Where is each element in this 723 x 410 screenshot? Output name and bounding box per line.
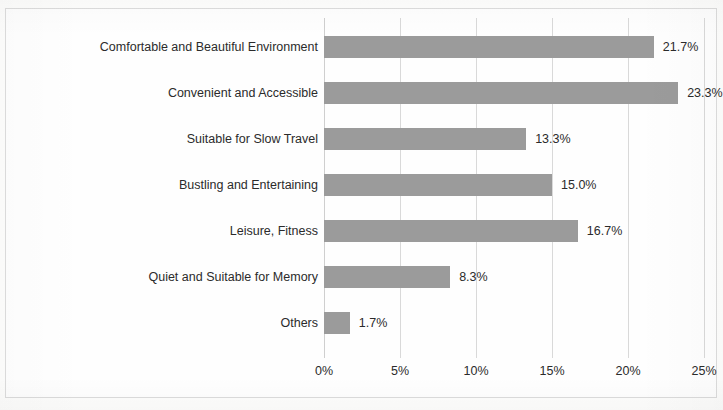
bar[interactable] <box>324 220 578 242</box>
bar-row[interactable]: 21.7% <box>324 36 704 58</box>
x-axis-tick-labels: 0%5%10%15%20%25% <box>324 362 704 384</box>
x-tick-label: 0% <box>315 362 333 380</box>
category-label: Leisure, Fitness <box>8 220 318 242</box>
bar-value-label: 23.3% <box>687 83 722 103</box>
category-label: Convenient and Accessible <box>8 82 318 104</box>
bar[interactable] <box>324 312 350 334</box>
bar-row[interactable]: 8.3% <box>324 266 704 288</box>
gridline-25pct <box>704 18 705 358</box>
bar[interactable] <box>324 128 526 150</box>
bar[interactable] <box>324 174 552 196</box>
category-label: Bustling and Entertaining <box>8 174 318 196</box>
category-label: Others <box>8 312 318 334</box>
category-label: Comfortable and Beautiful Environment <box>8 36 318 58</box>
x-tick-label: 10% <box>463 362 488 380</box>
bar-row[interactable]: 13.3% <box>324 128 704 150</box>
bar-value-label: 8.3% <box>459 267 488 287</box>
x-tick-label: 15% <box>539 362 564 380</box>
x-tick-label: 5% <box>391 362 409 380</box>
bar[interactable] <box>324 266 450 288</box>
bar-value-label: 1.7% <box>359 313 388 333</box>
bar-row[interactable]: 1.7% <box>324 312 704 334</box>
category-axis-labels: Comfortable and Beautiful EnvironmentCon… <box>6 18 318 358</box>
bar[interactable] <box>324 36 654 58</box>
category-label: Suitable for Slow Travel <box>8 128 318 150</box>
bar-value-label: 13.3% <box>535 129 570 149</box>
bar-chart-figure: 21.7%23.3%13.3%15.0%16.7%8.3%1.7% Comfor… <box>0 0 723 410</box>
bar-row[interactable]: 15.0% <box>324 174 704 196</box>
chart-plot-area: 21.7%23.3%13.3%15.0%16.7%8.3%1.7% <box>324 18 704 358</box>
x-tick-label: 20% <box>615 362 640 380</box>
category-label: Quiet and Suitable for Memory <box>8 266 318 288</box>
bar-value-label: 16.7% <box>587 221 622 241</box>
bar[interactable] <box>324 82 678 104</box>
bar-row[interactable]: 16.7% <box>324 220 704 242</box>
bar-value-label: 21.7% <box>663 37 698 57</box>
x-tick-label: 25% <box>691 362 716 380</box>
bar-row[interactable]: 23.3% <box>324 82 704 104</box>
bar-value-label: 15.0% <box>561 175 596 195</box>
